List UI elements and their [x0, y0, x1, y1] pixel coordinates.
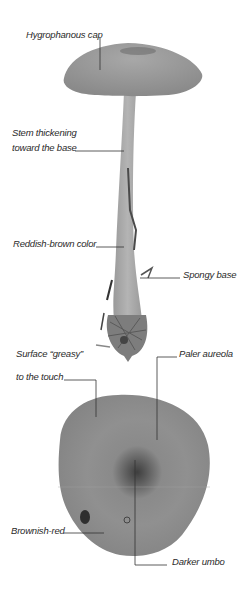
label-spongy-base: Spongy base	[183, 267, 236, 282]
label-hygrophanous-cap: Hygrophanous cap	[26, 27, 103, 42]
mushroom-cap-top-view	[58, 395, 210, 556]
label-stem-thickening-line1: Stem thickening	[12, 125, 77, 140]
mushroom-diagram: Hygrophanous cap Stem thickening toward …	[0, 0, 250, 602]
label-brownish-red: Brownish-red	[11, 523, 65, 538]
label-stem-thickening-line2: toward the base	[12, 140, 77, 155]
spongy-base	[96, 313, 147, 362]
label-darker-umbo: Darker umbo	[172, 554, 225, 569]
mushroom-stem	[107, 92, 152, 320]
label-reddish-brown: Reddish-brown color	[13, 236, 96, 251]
label-surface-greasy-line2: to the touch	[16, 369, 63, 384]
label-paler-aureola: Paler aureola	[179, 346, 233, 361]
mushroom-illustration	[0, 0, 250, 602]
label-surface-greasy-line1: Surface “greasy”	[16, 346, 83, 361]
mushroom-cap-side	[64, 43, 203, 96]
